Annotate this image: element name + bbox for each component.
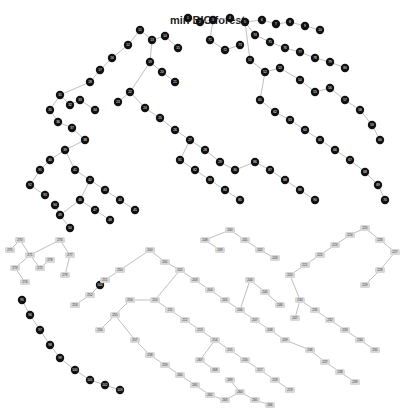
svg-text:219: 219: [287, 388, 293, 392]
svg-text:54: 54: [298, 78, 302, 82]
edge: [260, 72, 265, 100]
edge: [155, 270, 180, 300]
svg-text:271: 271: [27, 253, 33, 257]
svg-text:68: 68: [363, 170, 367, 174]
svg-text:56: 56: [328, 86, 332, 90]
svg-text:270: 270: [17, 238, 23, 242]
svg-text:26: 26: [173, 128, 177, 132]
svg-text:231: 231: [312, 308, 318, 312]
svg-text:207: 207: [252, 318, 258, 322]
svg-text:37: 37: [70, 126, 74, 130]
svg-text:240: 240: [227, 228, 233, 232]
svg-text:84: 84: [223, 188, 227, 192]
svg-text:9: 9: [304, 24, 306, 28]
svg-text:50: 50: [68, 226, 72, 230]
svg-text:102: 102: [102, 383, 108, 387]
svg-text:45: 45: [133, 208, 137, 212]
svg-text:256: 256: [97, 328, 103, 332]
svg-text:245: 245: [262, 290, 268, 294]
svg-text:31: 31: [58, 93, 62, 97]
svg-text:63: 63: [288, 118, 292, 122]
svg-text:204: 204: [207, 288, 213, 292]
svg-text:40: 40: [48, 158, 52, 162]
svg-text:220: 220: [287, 273, 293, 277]
svg-text:236: 236: [307, 348, 313, 352]
svg-text:10: 10: [318, 28, 322, 32]
svg-text:278: 278: [47, 258, 53, 262]
edge: [290, 275, 300, 300]
svg-text:94: 94: [53, 203, 57, 207]
svg-text:55: 55: [313, 90, 317, 94]
svg-text:258: 258: [147, 353, 153, 357]
svg-text:41: 41: [73, 168, 77, 172]
svg-text:11: 11: [138, 28, 142, 32]
svg-text:75: 75: [268, 40, 272, 44]
svg-text:101: 101: [87, 378, 93, 382]
svg-text:253: 253: [72, 303, 78, 307]
svg-text:16: 16: [110, 56, 114, 60]
svg-text:233: 233: [342, 328, 348, 332]
svg-text:35: 35: [48, 108, 52, 112]
svg-text:89: 89: [298, 188, 302, 192]
svg-text:33: 33: [78, 98, 82, 102]
svg-text:5: 5: [244, 20, 246, 24]
svg-text:210: 210: [152, 298, 158, 302]
svg-text:83: 83: [208, 178, 212, 182]
svg-text:22: 22: [128, 90, 132, 94]
svg-text:74: 74: [253, 33, 257, 37]
svg-text:275: 275: [7, 248, 13, 252]
svg-text:69: 69: [376, 183, 380, 187]
svg-text:215: 215: [227, 348, 233, 352]
svg-text:81: 81: [178, 158, 182, 162]
svg-text:247: 247: [292, 316, 298, 320]
edge: [115, 315, 135, 340]
svg-text:249: 249: [217, 248, 223, 252]
svg-text:88: 88: [283, 178, 287, 182]
svg-text:48: 48: [108, 218, 112, 222]
svg-text:24: 24: [143, 106, 147, 110]
svg-text:216: 216: [242, 358, 248, 362]
svg-text:274: 274: [22, 280, 28, 284]
svg-text:261: 261: [192, 383, 198, 387]
svg-text:250: 250: [117, 268, 123, 272]
svg-text:100: 100: [72, 368, 78, 372]
svg-text:237: 237: [322, 360, 328, 364]
svg-text:267: 267: [197, 358, 203, 362]
svg-text:72: 72: [223, 48, 227, 52]
svg-text:241: 241: [242, 238, 248, 242]
svg-text:49: 49: [58, 213, 62, 217]
svg-text:29: 29: [218, 160, 222, 164]
svg-text:8: 8: [289, 20, 291, 24]
forest-diagram: min BIC forest 1234567891011121314151617…: [0, 0, 415, 420]
svg-text:23: 23: [116, 100, 120, 104]
svg-text:17: 17: [98, 68, 102, 72]
svg-text:92: 92: [28, 183, 32, 187]
svg-text:30: 30: [233, 168, 237, 172]
svg-text:242: 242: [257, 248, 263, 252]
svg-text:104: 104: [97, 283, 103, 287]
svg-text:222: 222: [317, 253, 323, 257]
svg-text:28: 28: [203, 148, 207, 152]
svg-text:230: 230: [297, 298, 303, 302]
svg-text:85: 85: [238, 198, 242, 202]
svg-text:221: 221: [302, 263, 308, 267]
svg-text:76: 76: [283, 46, 287, 50]
svg-text:248: 248: [202, 238, 208, 242]
svg-text:200: 200: [147, 248, 153, 252]
svg-text:91: 91: [38, 168, 42, 172]
svg-text:226: 226: [377, 238, 383, 242]
edge: [240, 280, 250, 310]
svg-text:266: 266: [267, 403, 273, 407]
svg-text:59: 59: [370, 123, 374, 127]
svg-text:14: 14: [163, 34, 167, 38]
svg-text:201: 201: [162, 260, 168, 264]
svg-text:243: 243: [272, 256, 278, 260]
svg-text:98: 98: [48, 343, 52, 347]
svg-text:73: 73: [238, 43, 242, 47]
svg-text:3: 3: [212, 18, 214, 22]
svg-text:71: 71: [208, 38, 212, 42]
svg-text:32: 32: [68, 103, 72, 107]
svg-text:77: 77: [298, 50, 302, 54]
svg-text:27: 27: [188, 138, 192, 142]
svg-text:260: 260: [177, 373, 183, 377]
